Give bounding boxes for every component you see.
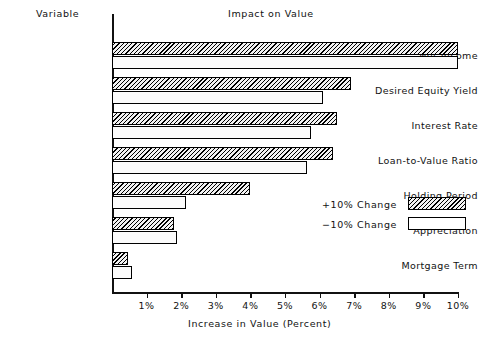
bar: [112, 231, 177, 244]
x-axis-tick-label: 6%: [312, 300, 328, 311]
x-axis-tick-label: 7%: [346, 300, 362, 311]
x-axis-tick: [320, 293, 321, 298]
bar: [112, 126, 311, 139]
bar: [112, 112, 337, 125]
x-axis-tick-label: 2%: [173, 300, 189, 311]
x-axis-title: Increase in Value (Percent): [188, 318, 331, 329]
x-axis-tick-label: 1%: [139, 300, 155, 311]
x-axis-tick-label: 10%: [447, 300, 470, 311]
variable-column-header: Variable: [36, 8, 79, 19]
bar: [112, 42, 458, 55]
x-axis-tick-label: 4%: [242, 300, 258, 311]
x-axis-tick: [423, 293, 424, 298]
x-axis-tick: [285, 293, 286, 298]
legend-swatch: [408, 197, 466, 210]
bar: [112, 217, 174, 230]
legend-item-label: −10% Change: [322, 219, 397, 230]
bar: [112, 56, 458, 69]
page-title: Impact on Value: [228, 8, 314, 19]
bar: [112, 266, 132, 279]
x-axis-tick: [181, 293, 182, 298]
x-axis-tick: [354, 293, 355, 298]
bar: [112, 147, 333, 160]
category-label: Mortgage Term: [372, 260, 478, 271]
bar: [112, 161, 307, 174]
bar: [112, 182, 250, 195]
sensitivity-bar-chart: Variable Impact on Value 1%2%3%4%5%6%7%8…: [0, 0, 478, 341]
bar: [112, 196, 186, 209]
x-axis-tick: [250, 293, 251, 298]
category-label: Loan-to-Value Ratio: [372, 155, 478, 166]
bar: [112, 77, 351, 90]
legend-item-label: +10% Change: [322, 199, 397, 210]
x-axis-tick: [216, 293, 217, 298]
x-axis-tick: [389, 293, 390, 298]
legend-item: +10% Change: [322, 196, 472, 216]
x-axis-tick: [458, 293, 459, 298]
x-axis-tick-label: 8%: [381, 300, 397, 311]
category-label: Interest Rate: [372, 120, 478, 131]
legend: +10% Change−10% Change: [322, 196, 472, 236]
bar: [112, 252, 128, 265]
x-axis-tick-label: 3%: [208, 300, 224, 311]
legend-swatch: [408, 217, 466, 230]
legend-item: −10% Change: [322, 216, 472, 236]
category-label: Desired Equity Yield: [372, 85, 478, 96]
x-axis-tick-label: 9%: [415, 300, 431, 311]
x-axis-tick: [147, 293, 148, 298]
bar: [112, 91, 323, 104]
x-axis-tick-label: 5%: [277, 300, 293, 311]
